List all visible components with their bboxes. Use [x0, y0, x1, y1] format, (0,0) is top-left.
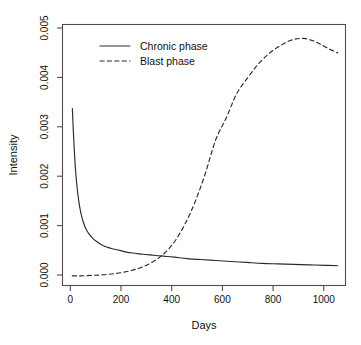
y-tick-label: 0.003: [39, 114, 50, 139]
legend-label-chronic-phase: Chronic phase: [140, 40, 208, 52]
x-tick-label: 800: [265, 294, 282, 305]
x-axis-title: Days: [191, 319, 217, 331]
x-tick-label: 1000: [313, 294, 336, 305]
y-tick-label: 0.005: [39, 15, 50, 40]
y-tick-label: 0.004: [39, 64, 50, 89]
y-tick-label: 0.001: [39, 213, 50, 238]
y-tick-label: 0.002: [39, 163, 50, 188]
y-axis-title: Intensity: [7, 134, 19, 175]
legend-label-blast-phase: Blast phase: [140, 55, 195, 67]
y-tick-label: 0.000: [39, 262, 50, 287]
x-tick-label: 600: [214, 294, 231, 305]
x-tick-label: 200: [113, 294, 130, 305]
chart-background: [0, 0, 361, 345]
x-tick-label: 400: [163, 294, 180, 305]
intensity-vs-days-chart: 0.000 0.001 0.002 0.003 0.004 0.005 0 20…: [0, 0, 361, 345]
x-tick-label: 0: [68, 294, 74, 305]
